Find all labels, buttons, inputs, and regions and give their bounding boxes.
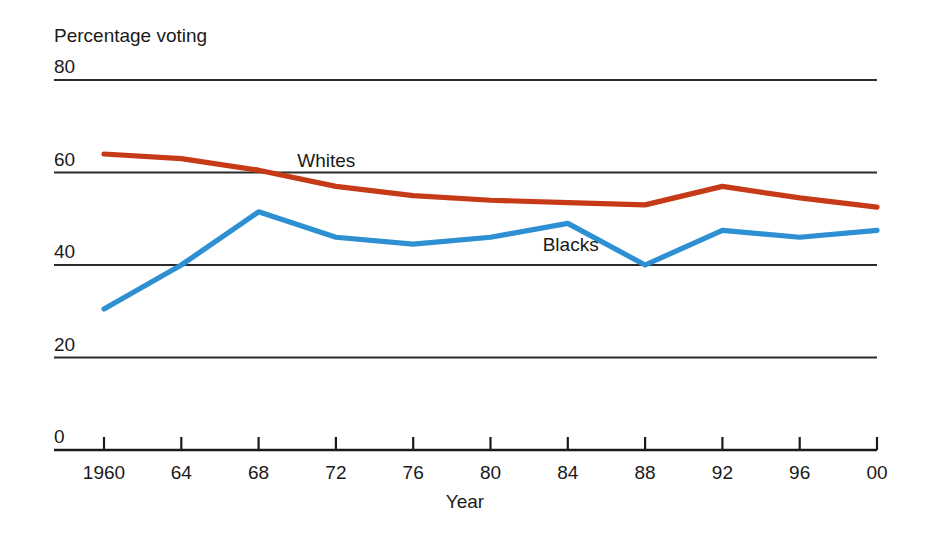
gridlines-group xyxy=(54,80,877,358)
x-axis-tick-label-2000: 00 xyxy=(847,463,907,482)
y-axis-tick-label-40: 40 xyxy=(54,242,75,261)
x-axis-tick-label-1992: 92 xyxy=(692,463,752,482)
x-axis-tick-label-1996: 96 xyxy=(770,463,830,482)
x-axis-tick-label-1980: 80 xyxy=(461,463,521,482)
series-annotation-blacks: Blacks xyxy=(543,235,599,254)
series-line-whites xyxy=(104,154,877,207)
y-axis-title: Percentage voting xyxy=(54,26,207,45)
x-axis-tick-label-1976: 76 xyxy=(383,463,443,482)
x-axis-tick-label-1964: 64 xyxy=(151,463,211,482)
x-axis-tick-label-1968: 68 xyxy=(229,463,289,482)
y-axis-tick-label-80: 80 xyxy=(54,57,75,76)
series-annotation-whites: Whites xyxy=(297,151,355,170)
x-axis-title: Year xyxy=(0,492,930,511)
x-axis-tick-label-1988: 88 xyxy=(615,463,675,482)
y-axis-tick-label-60: 60 xyxy=(54,150,75,169)
y-axis-tick-label-0: 0 xyxy=(54,427,65,446)
y-axis-tick-label-20: 20 xyxy=(54,335,75,354)
data-series-group xyxy=(104,154,877,309)
x-axis-tick-label-1960: 1960 xyxy=(74,463,134,482)
series-line-blacks xyxy=(104,212,877,309)
line-chart-plot xyxy=(0,0,930,540)
x-axis-tick-label-1984: 84 xyxy=(538,463,598,482)
x-axis-group xyxy=(54,437,877,450)
chart-figure: Percentage voting Year 806040200 1960646… xyxy=(0,0,930,540)
x-axis-tick-label-1972: 72 xyxy=(306,463,366,482)
